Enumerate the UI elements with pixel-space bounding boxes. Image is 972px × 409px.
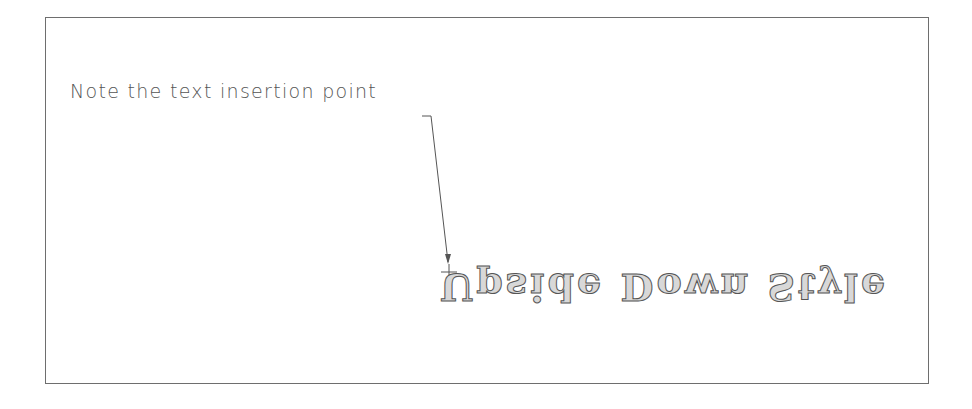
upside-down-text-sample: Upside Down Style [440, 262, 910, 312]
leader-arrow [0, 0, 972, 409]
